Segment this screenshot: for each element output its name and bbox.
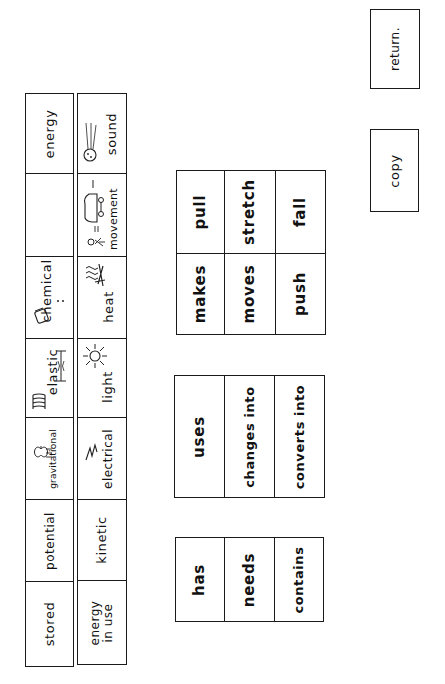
cell-heat[interactable]: heat <box>77 256 127 339</box>
word-pull[interactable]: pull <box>176 170 225 254</box>
return-button-label: return. <box>389 27 402 71</box>
cell-stored[interactable]: stored <box>25 581 74 667</box>
word-uses[interactable]: uses <box>174 375 225 498</box>
label-energy: energy <box>43 109 57 158</box>
label-heat: heat <box>102 291 116 323</box>
word-stretch-label: stretch <box>242 179 258 245</box>
word-converts-into[interactable]: converts into <box>274 375 325 498</box>
fall-lines-icon <box>45 448 53 462</box>
cell-light[interactable]: light <box>77 338 127 418</box>
word-makes-label: makes <box>193 265 209 323</box>
cell-sound[interactable]: sound <box>77 93 127 174</box>
car-person-icon <box>81 178 111 254</box>
cell-energy[interactable]: energy <box>25 93 74 174</box>
cell-kinetic[interactable]: kinetic <box>77 499 127 581</box>
spring-icon <box>31 393 47 411</box>
ball-sound-icon <box>82 121 102 163</box>
cell-blank[interactable] <box>25 173 74 257</box>
word-needs[interactable]: needs <box>224 537 275 622</box>
battery-icon <box>33 305 51 325</box>
cell-energy-in-use[interactable]: energy in use <box>77 580 127 665</box>
label-potential: potential <box>43 512 56 570</box>
dots-icon <box>56 295 68 307</box>
copy-button-label: copy <box>388 154 402 187</box>
stretch-bar-icon <box>54 349 68 383</box>
word-push-label: push <box>293 272 309 316</box>
has-block: has needs contains <box>175 537 324 622</box>
label-sound: sound <box>105 112 119 154</box>
label-kinetic: kinetic <box>95 516 109 563</box>
cell-chemical[interactable]: chemical <box>25 256 74 339</box>
word-moves[interactable]: moves <box>224 253 276 335</box>
label-energy-in-use-line2: in use <box>102 600 115 645</box>
label-stored: stored <box>43 602 57 647</box>
label-light: light <box>101 371 115 403</box>
word-makes[interactable]: makes <box>176 253 225 335</box>
cell-potential[interactable]: potential <box>25 499 74 582</box>
word-contains-label: contains <box>292 546 306 613</box>
word-contains[interactable]: contains <box>274 537 324 622</box>
verbs-block: pull makes stretch moves fall push <box>176 170 326 334</box>
lightning-icon <box>84 442 100 462</box>
word-changes-into[interactable]: changes into <box>224 375 275 498</box>
word-needs-label: needs <box>242 552 258 607</box>
word-has-label: has <box>192 563 208 595</box>
word-uses-label: uses <box>192 416 208 458</box>
return-button[interactable]: return. <box>370 9 420 89</box>
word-stretch[interactable]: stretch <box>224 170 276 254</box>
word-changes-into-label: changes into <box>243 386 257 487</box>
label-electrical: electrical <box>101 429 114 489</box>
sun-icon <box>81 342 109 370</box>
cell-gravitational[interactable]: gravitational <box>25 417 74 500</box>
word-fall-label: fall <box>293 197 309 227</box>
word-converts-into-label: converts into <box>293 384 307 489</box>
label-energy-in-use: energy in use <box>89 600 114 645</box>
uses-block: uses changes into converts into <box>174 375 325 498</box>
cell-movement[interactable]: movement <box>77 173 127 257</box>
label-energy-in-use-line1: energy <box>89 600 102 645</box>
word-push[interactable]: push <box>275 253 326 335</box>
word-fall[interactable]: fall <box>275 170 326 254</box>
word-has[interactable]: has <box>175 537 225 622</box>
cell-elastic[interactable]: elastic <box>25 338 74 418</box>
word-moves-label: moves <box>242 265 258 324</box>
copy-button[interactable]: copy <box>370 129 419 212</box>
word-pull-label: pull <box>193 195 209 230</box>
heat-waves-icon <box>83 262 107 288</box>
cell-electrical[interactable]: electrical <box>77 417 127 500</box>
